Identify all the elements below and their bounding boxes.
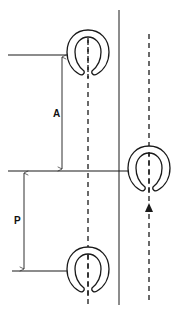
dimension-a-label: A [53, 108, 60, 119]
gait-diagram: A P [0, 0, 179, 314]
dimension-p-label: P [14, 215, 21, 226]
up-arrow-icon [145, 203, 153, 212]
